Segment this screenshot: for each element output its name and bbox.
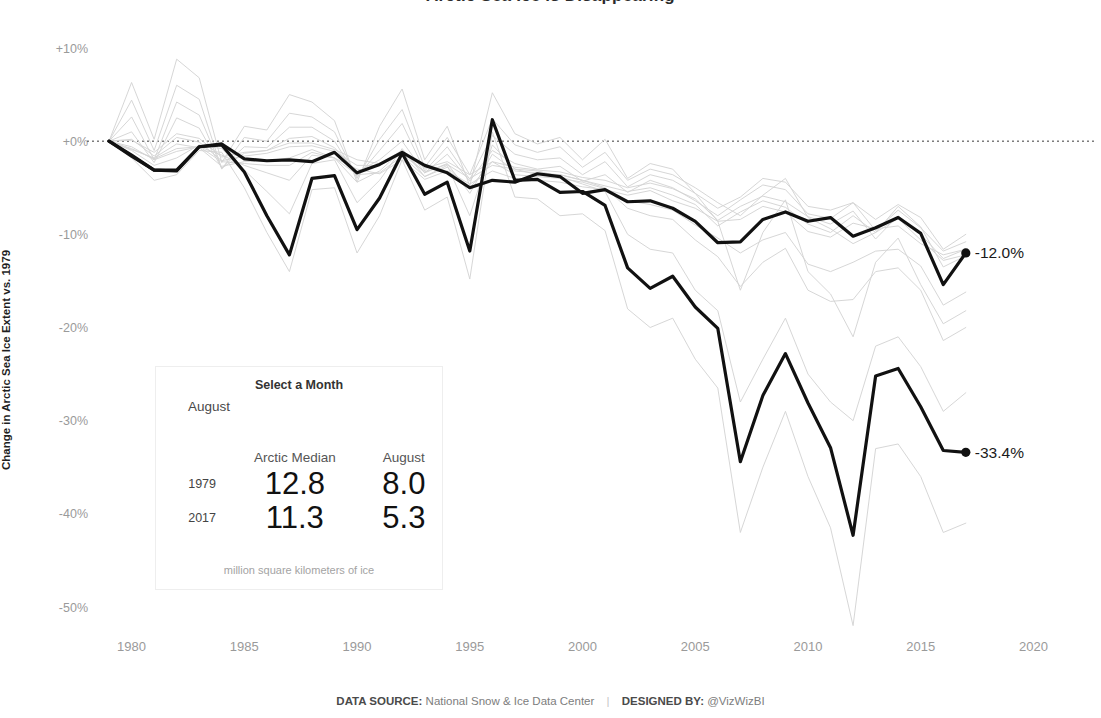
stats-col-month: August <box>366 449 442 467</box>
end-marker-arctic-median <box>961 248 970 257</box>
x-tick-label: 1985 <box>230 639 259 654</box>
end-marker-august <box>961 448 970 457</box>
end-label-arctic-median: -12.0% <box>975 244 1024 261</box>
x-tick-label: 2005 <box>681 639 710 654</box>
stats-median-2017: 11.3 <box>224 501 366 535</box>
x-axis-ticks: 198019851990199520002005201020152020 <box>117 639 1048 654</box>
selected-month-value[interactable]: August <box>156 392 442 414</box>
end-label-august: -33.4% <box>975 444 1024 461</box>
y-tick-label: -50% <box>59 601 88 615</box>
footer-separator: | <box>598 695 619 707</box>
x-tick-label: 2000 <box>568 639 597 654</box>
x-tick-label: 2010 <box>794 639 823 654</box>
stats-year-2017: 2017 <box>156 501 224 535</box>
panel-header: Select a Month <box>156 367 442 392</box>
month-selector-panel[interactable]: Select a Month August Arctic Median Augu… <box>155 366 443 590</box>
y-tick-label: -10% <box>59 228 88 242</box>
y-tick-label: +10% <box>56 42 88 56</box>
x-tick-label: 2015 <box>906 639 935 654</box>
data-source-value: National Snow & Ice Data Center <box>426 695 595 707</box>
designer-label: DESIGNED BY: <box>622 695 704 707</box>
y-tick-label: -30% <box>59 414 88 428</box>
series-end-markers <box>961 248 970 457</box>
stats-table: Arctic Median August 1979 12.8 8.0 2017 … <box>156 449 442 535</box>
y-axis-ticks: +10%+0%-10%-20%-30%-40%-50% <box>56 42 88 615</box>
stats-month-1979: 8.0 <box>366 467 442 501</box>
y-tick-label: -20% <box>59 321 88 335</box>
designer-value: @VizWizBI <box>707 695 764 707</box>
stats-year-1979: 1979 <box>156 467 224 501</box>
series-line-july <box>109 59 966 337</box>
stats-header-row: Arctic Median August <box>156 449 442 467</box>
table-row: 2017 11.3 5.3 <box>156 501 442 535</box>
table-row: 1979 12.8 8.0 <box>156 467 442 501</box>
line-chart: +10%+0%-10%-20%-30%-40%-50% 198019851990… <box>0 0 1101 718</box>
y-tick-label: +0% <box>63 135 88 149</box>
data-source-label: DATA SOURCE: <box>336 695 422 707</box>
footer-credits: DATA SOURCE: National Snow & Ice Data Ce… <box>0 695 1101 707</box>
stats-median-1979: 12.8 <box>224 467 366 501</box>
series-end-labels: -12.0%-33.4% <box>975 244 1024 460</box>
stats-corner-cell <box>156 449 224 467</box>
x-tick-label: 2020 <box>1019 639 1048 654</box>
stats-col-median: Arctic Median <box>224 449 366 467</box>
panel-footnote: million square kilometers of ice <box>156 564 442 576</box>
y-tick-label: -40% <box>59 507 88 521</box>
x-tick-label: 1990 <box>343 639 372 654</box>
x-tick-label: 1995 <box>455 639 484 654</box>
stats-month-2017: 5.3 <box>366 501 442 535</box>
x-tick-label: 1980 <box>117 639 146 654</box>
